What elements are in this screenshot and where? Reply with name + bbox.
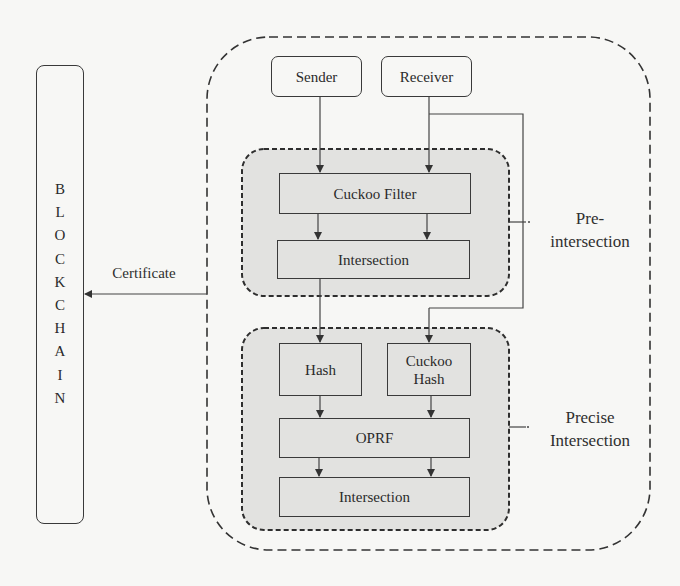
certificate-label: Certificate (96, 262, 192, 285)
oprf-node: OPRF (279, 418, 470, 458)
pre-intersection-label-line2: intersection (535, 230, 645, 253)
pre-intersection-label-line1: Pre- (535, 207, 645, 230)
blockchain-letter: K (55, 271, 66, 294)
pre-intersection-node: Intersection (277, 240, 470, 279)
blockchain-node: B L O C K C H A I N (36, 65, 84, 524)
blockchain-letter: O (55, 224, 66, 247)
precise-intersection-label-line1: Precise (535, 406, 645, 429)
precise-intersection-label-line2: Intersection (535, 429, 645, 452)
blockchain-letter: C (55, 248, 65, 271)
cuckoo-hash-line2: Hash (414, 370, 445, 388)
hash-node: Hash (279, 343, 362, 396)
blockchain-letter: H (55, 317, 66, 340)
precise-intersection-node: Intersection (279, 477, 470, 517)
precise-intersection-label: Precise Intersection (535, 406, 645, 452)
blockchain-letter: L (55, 201, 64, 224)
cuckoo-hash-line1: Cuckoo (406, 352, 453, 370)
cuckoo-hash-node: Cuckoo Hash (387, 343, 471, 396)
cuckoo-filter-node: Cuckoo Filter (279, 173, 471, 214)
blockchain-letter: B (55, 178, 65, 201)
blockchain-letter: I (58, 364, 63, 387)
receiver-node: Receiver (381, 56, 472, 97)
sender-node: Sender (271, 56, 362, 97)
blockchain-letter: A (55, 340, 66, 363)
blockchain-letter: N (55, 387, 66, 410)
blockchain-letter: C (55, 294, 65, 317)
pre-intersection-label: Pre- intersection (535, 207, 645, 253)
